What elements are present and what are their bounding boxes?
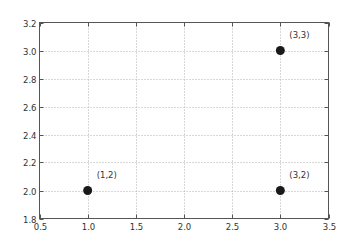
- y-tick-label: 3.0: [23, 47, 37, 57]
- x-tick-label: 1.0: [82, 222, 96, 232]
- data-point-marker: [276, 186, 285, 195]
- y-tick-label: 2.8: [23, 75, 37, 85]
- point-label: (3,2): [289, 170, 309, 180]
- y-tick-label: 2.6: [23, 103, 37, 113]
- point-label: (1,2): [97, 170, 117, 180]
- y-axis-tick-labels: 1.82.02.22.42.62.83.03.2: [23, 19, 37, 225]
- x-tick-label: 3.5: [323, 222, 337, 232]
- x-tick-label: 3.0: [274, 222, 288, 232]
- x-tick-label: 2.5: [226, 222, 240, 232]
- x-tick-label: 2.0: [178, 222, 192, 232]
- y-tick-label: 3.2: [23, 19, 37, 29]
- data-point-marker: [276, 46, 285, 55]
- point-label: (3,3): [289, 30, 309, 40]
- data-point-marker: [83, 186, 92, 195]
- y-tick-label: 2.2: [23, 158, 37, 168]
- x-tick-label: 1.5: [130, 222, 144, 232]
- axis-ticks: [40, 23, 330, 220]
- y-tick-label: 1.8: [23, 215, 37, 225]
- y-tick-label: 2.0: [23, 187, 37, 197]
- y-tick-label: 2.4: [23, 131, 37, 141]
- grid-lines: [40, 23, 329, 219]
- scatter-chart: 0.51.01.52.02.53.03.5 1.82.02.22.42.62.8…: [0, 0, 353, 248]
- x-axis-tick-labels: 0.51.01.52.02.53.03.5: [34, 222, 337, 232]
